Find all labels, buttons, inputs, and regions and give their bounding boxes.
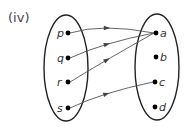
- arrowhead-icon: [103, 43, 110, 47]
- element-dot-c: [153, 80, 158, 85]
- codomain-set-ellipse: [135, 14, 179, 120]
- arrowhead-icon: [103, 58, 110, 63]
- mapping-diagram: (iv) pqrs abcd: [0, 0, 190, 134]
- element-label-c: c: [159, 76, 165, 89]
- element-label-a: a: [160, 27, 167, 40]
- element-label-r: r: [57, 76, 63, 89]
- element-dot-b: [154, 55, 159, 60]
- element-label-q: q: [57, 52, 64, 65]
- diagram-title: (iv): [8, 10, 29, 25]
- arrow-q-to-a: [70, 33, 154, 58]
- element-dot-r: [66, 80, 71, 85]
- element-label-s: s: [57, 102, 63, 115]
- arrowhead-icon: [103, 93, 110, 97]
- arrowhead-icon: [104, 26, 110, 30]
- element-dot-s: [66, 106, 71, 111]
- domain-set-ellipse: [44, 15, 88, 121]
- element-dot-p: [66, 31, 71, 36]
- arrow-r-to-a: [70, 33, 154, 82]
- element-label-p: p: [56, 27, 64, 40]
- codomain-elements: abcd: [153, 27, 167, 114]
- element-dot-a: [154, 31, 159, 36]
- domain-elements: pqrs: [56, 27, 70, 115]
- element-dot-q: [66, 56, 71, 61]
- element-label-d: d: [159, 101, 167, 114]
- element-label-b: b: [160, 51, 167, 64]
- mapping-arrows: [70, 26, 154, 108]
- element-dot-d: [153, 105, 158, 110]
